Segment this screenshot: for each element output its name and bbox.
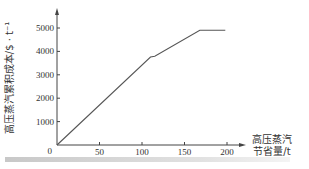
x-ticks: 50100150200 bbox=[95, 142, 234, 157]
origin-label: 0 bbox=[48, 146, 53, 156]
x-axis-title-line1: 高压蒸汽 bbox=[252, 133, 292, 145]
x-tick-label: 50 bbox=[95, 147, 105, 157]
x-axis-title-line2: 节省量/t bbox=[253, 145, 290, 157]
y-tick-label: 3000 bbox=[36, 70, 55, 80]
y-tick-label: 4000 bbox=[36, 46, 55, 56]
x-axis-arrow-icon bbox=[239, 143, 246, 147]
x-tick-label: 100 bbox=[135, 147, 149, 157]
x-tick-label: 200 bbox=[220, 147, 234, 157]
y-axis-title: 高压蒸汽累积成本/$ · t⁻¹ bbox=[3, 22, 15, 134]
y-ticks: 10002000300040005000 bbox=[36, 23, 60, 127]
y-axis-arrow-icon bbox=[55, 8, 59, 15]
data-line bbox=[57, 30, 225, 145]
chart: 10002000300040005000 50100150200 0 高压蒸汽累… bbox=[0, 0, 309, 169]
y-tick-label: 1000 bbox=[36, 117, 55, 127]
bottom-gray-bar bbox=[5, 157, 290, 162]
y-tick-label: 5000 bbox=[36, 23, 55, 33]
y-tick-label: 2000 bbox=[36, 93, 55, 103]
x-tick-label: 150 bbox=[178, 147, 192, 157]
